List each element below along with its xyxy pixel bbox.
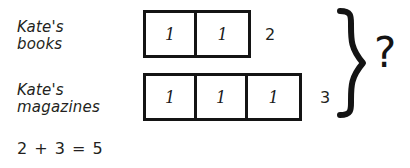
unit-cell: 1	[197, 13, 248, 55]
unit-cell: 1	[146, 13, 197, 55]
row-label-books: Kate's books	[17, 19, 64, 53]
row-total-magazines: 3	[315, 88, 335, 107]
row-label-magazines: Kate's magazines	[17, 82, 100, 116]
brace-shape	[336, 4, 368, 122]
bar-model-diagram: Kate's books 1 1 2 Kate's magazines 1 1 …	[0, 0, 410, 168]
row-total-books: 2	[260, 25, 280, 44]
unit-cell: 1	[146, 76, 197, 118]
equation: 2 + 3 = 5	[17, 139, 104, 158]
right-curly-brace-icon	[336, 4, 368, 122]
bar-row-books: 1 1	[143, 10, 251, 58]
unit-cell: 1	[248, 76, 299, 118]
unit-cell: 1	[197, 76, 248, 118]
unknown-total-question-mark: ?	[374, 32, 396, 74]
bar-row-magazines: 1 1 1	[143, 73, 302, 121]
